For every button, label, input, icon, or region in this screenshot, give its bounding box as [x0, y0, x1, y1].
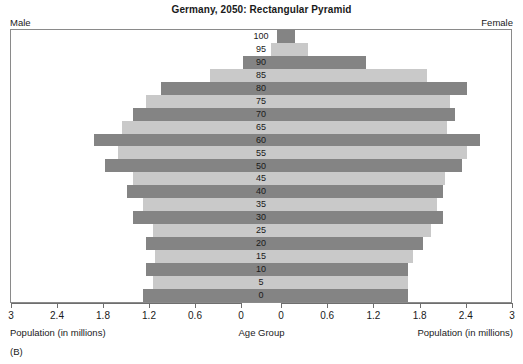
age-group-tick-label: 0 [241, 289, 281, 302]
female-bar [281, 237, 423, 250]
age-group-tick-label: 25 [241, 224, 281, 237]
x-axis-tick [420, 303, 421, 308]
female-bar [281, 121, 447, 134]
female-bar [281, 69, 427, 82]
x-axis-tick [466, 303, 467, 308]
right-axis-label: Population (in millions) [417, 327, 513, 338]
population-pyramid-figure: Germany, 2050: Rectangular Pyramid Male … [0, 0, 523, 364]
age-group-axis: 1009590858075706560555045403530252015105… [241, 30, 281, 302]
x-axis-tick-label: 0.6 [320, 310, 334, 321]
right-axis-line [281, 303, 512, 304]
left-axis-line [11, 303, 241, 304]
age-group-tick-label: 90 [241, 56, 281, 69]
x-axis-tick-label: 0 [238, 310, 244, 321]
female-bar [281, 250, 413, 263]
age-group-tick-label: 85 [241, 69, 281, 82]
age-group-tick-label: 65 [241, 121, 281, 134]
x-axis-tick-label: 0 [278, 310, 284, 321]
x-axis-tick [195, 303, 196, 308]
x-axis-tick [149, 303, 150, 308]
female-bar [281, 159, 462, 172]
female-bar [281, 276, 408, 289]
x-axis-tick-label: 1.8 [96, 310, 110, 321]
female-bar [281, 134, 480, 147]
x-axis-tick-label: 0.6 [188, 310, 202, 321]
x-axis-tick-label: 3 [509, 310, 515, 321]
female-bar [281, 146, 467, 159]
age-group-tick-label: 70 [241, 108, 281, 121]
x-axis-tick-label: 1.8 [413, 310, 427, 321]
female-bar [281, 30, 295, 43]
age-group-tick-label: 100 [241, 30, 281, 43]
female-bar [281, 198, 437, 211]
female-bar [281, 211, 443, 224]
female-bar [281, 108, 455, 121]
age-group-tick-label: 35 [241, 198, 281, 211]
age-group-tick-label: 45 [241, 172, 281, 185]
x-axis-tick-label: 1.2 [142, 310, 156, 321]
female-bar [281, 82, 467, 95]
x-axis-tick [281, 303, 282, 308]
x-axis-tick-label: 3 [8, 310, 14, 321]
female-bar [281, 263, 408, 276]
female-bar [281, 172, 445, 185]
age-group-tick-label: 55 [241, 147, 281, 160]
x-axis-tick [57, 303, 58, 308]
age-group-tick-label: 50 [241, 160, 281, 173]
age-group-tick-label: 10 [241, 263, 281, 276]
x-axis-tick [241, 303, 242, 308]
panel-identifier: (B) [10, 346, 23, 357]
age-group-tick-label: 80 [241, 82, 281, 95]
age-group-tick-label: 40 [241, 185, 281, 198]
female-bar [281, 95, 450, 108]
age-group-tick-label: 15 [241, 250, 281, 263]
x-axis-tick [11, 303, 12, 308]
female-bar [281, 56, 366, 69]
age-group-tick-label: 75 [241, 95, 281, 108]
x-axis-tick-label: 2.4 [50, 310, 64, 321]
age-group-tick-label: 30 [241, 211, 281, 224]
age-group-tick-label: 95 [241, 43, 281, 56]
female-bar [281, 43, 308, 56]
female-bar [281, 185, 443, 198]
age-group-tick-label: 5 [241, 276, 281, 289]
age-group-tick-label: 20 [241, 237, 281, 250]
male-side-label: Male [10, 17, 31, 28]
female-bar [281, 224, 431, 237]
x-axis-tick [103, 303, 104, 308]
chart-title: Germany, 2050: Rectangular Pyramid [0, 4, 523, 15]
female-side-label: Female [481, 17, 513, 28]
female-bar [281, 289, 408, 302]
x-axis-tick [373, 303, 374, 308]
x-axis-tick-label: 1.2 [366, 310, 380, 321]
x-axis-tick-label: 2.4 [459, 310, 473, 321]
x-axis-tick [327, 303, 328, 308]
x-axis-tick [512, 303, 513, 308]
age-group-tick-label: 60 [241, 134, 281, 147]
